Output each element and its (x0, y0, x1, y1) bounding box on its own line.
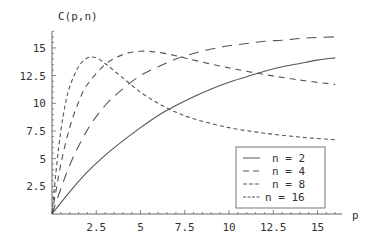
y-tick-label: 2.5 (26, 180, 46, 193)
legend-label: n = 8 (272, 178, 305, 191)
x-tick-label: 15 (311, 221, 324, 234)
x-tick-label: 7.5 (175, 221, 195, 234)
y-tick-label: 12.5 (20, 70, 47, 83)
y-tick-label: 15 (33, 42, 46, 55)
y-axis-label: C(p,n) (58, 10, 98, 23)
y-tick-label: 5 (39, 153, 46, 166)
legend-label: n = 2 (272, 152, 305, 165)
x-tick-label: 10 (222, 221, 235, 234)
speedup-chart: 2.557.51012.5152.557.51012.515 C(p,n) p … (0, 0, 377, 243)
legend-label: n = 4 (272, 165, 305, 178)
plot-area: 2.557.51012.5152.557.51012.515 C(p,n) p … (0, 0, 377, 243)
x-tick-label: 2.5 (86, 221, 106, 234)
x-axis-label: p (352, 209, 359, 222)
y-tick-label: 7.5 (26, 125, 46, 138)
legend-label: n = 16 (265, 191, 305, 204)
y-tick-label: 10 (33, 97, 46, 110)
x-tick-label: 5 (137, 221, 144, 234)
legend: n = 2 n = 4 n = 8 n = 16 (236, 147, 325, 208)
x-tick-label: 12.5 (260, 221, 287, 234)
